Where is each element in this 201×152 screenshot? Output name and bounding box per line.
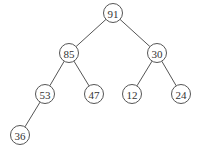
edge-91-30	[120, 19, 150, 46]
tree-node-30: 30	[148, 44, 167, 63]
tree-node-91: 91	[104, 4, 123, 23]
node-label: 12	[127, 89, 138, 101]
tree-node-24: 24	[172, 85, 191, 104]
tree-node-85: 85	[60, 44, 79, 63]
node-label: 36	[15, 130, 27, 142]
tree-edges	[25, 19, 176, 126]
edge-30-12	[137, 61, 152, 86]
node-label: 30	[152, 48, 164, 60]
node-label: 53	[40, 89, 52, 101]
node-label: 24	[176, 89, 188, 101]
node-label: 47	[89, 89, 101, 101]
tree-node-53: 53	[36, 85, 55, 104]
tree-node-47: 47	[85, 85, 104, 104]
heap-tree-diagram: 9185305347122436	[0, 0, 201, 152]
tree-node-12: 12	[123, 85, 142, 104]
node-label: 85	[64, 48, 76, 60]
edge-53-36	[25, 102, 40, 127]
edge-30-24	[162, 61, 176, 86]
edge-85-53	[50, 61, 64, 86]
edge-91-85	[76, 19, 106, 46]
edge-85-47	[74, 61, 89, 86]
node-label: 91	[108, 8, 119, 20]
tree-node-36: 36	[11, 126, 30, 145]
